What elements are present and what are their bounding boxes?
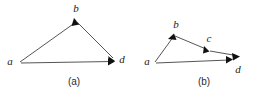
arrowhead-b-panel-b: [168, 34, 177, 41]
arrowhead-c-panel-b: [203, 46, 210, 54]
edge-a-b-panel-b: [155, 38, 173, 62]
edge-a-b: [20, 22, 76, 62]
vector-diagram: a b d (a) a b c d (b): [0, 0, 255, 95]
vertex-label-a-panel-a: a: [7, 55, 13, 67]
vertex-label-d-panel-b: d: [235, 63, 241, 75]
figure-canvas: a b d (a) a b c d (b): [0, 0, 255, 95]
edge-b-d: [76, 21, 113, 58]
edge-a-d-panel-b: [156, 60, 229, 63]
edge-b-c-panel-b: [175, 36, 206, 49]
arrowhead-b: [72, 18, 80, 26]
caption-panel-b: (b): [198, 76, 210, 87]
vertex-label-b-panel-b: b: [173, 18, 179, 30]
vertex-label-d-panel-a: d: [119, 53, 125, 65]
caption-panel-a: (a): [68, 76, 80, 87]
panel-a: a b d (a): [7, 2, 125, 87]
panel-b: a b c d (b): [144, 18, 241, 87]
vertex-label-a-panel-b: a: [144, 55, 150, 67]
arrowhead-d-from-a-panel-b: [226, 56, 233, 64]
vertex-label-b-panel-a: b: [73, 2, 79, 14]
arrowhead-d-from-c: [232, 53, 240, 61]
vertex-label-c-panel-b: c: [207, 32, 212, 44]
edge-a-d: [21, 62, 111, 64]
